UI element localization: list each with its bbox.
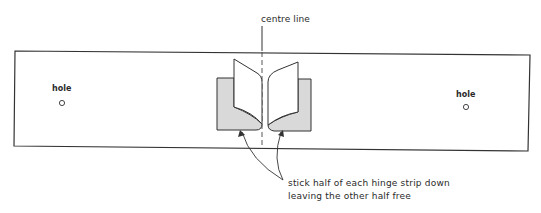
hole-right-label: hole [456, 91, 475, 99]
hinge-diagram [0, 0, 541, 213]
annotation-text: stick half of each hinge strip down leav… [288, 177, 450, 203]
centre-line-label: centre line [261, 15, 310, 24]
annotation-line-2: leaving the other half free [288, 190, 450, 203]
annotation-line-1: stick half of each hinge strip down [288, 177, 450, 190]
hole-right-icon [463, 104, 468, 109]
hole-left-icon [59, 100, 64, 105]
hole-left-label: hole [52, 85, 71, 93]
